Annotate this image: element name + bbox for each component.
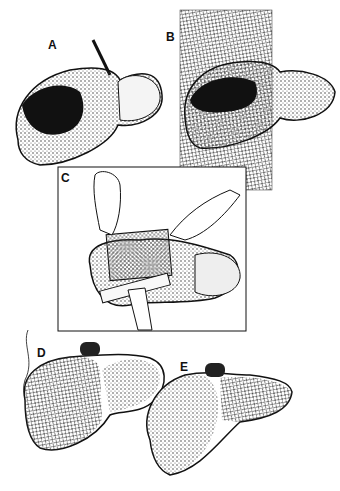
panel-c-label: C: [61, 171, 70, 185]
figure-canvas: [0, 0, 340, 491]
panel-d-label: D: [37, 346, 46, 360]
panel-b-label: B: [166, 30, 175, 44]
panel-e-label: E: [180, 360, 188, 374]
panel-b-liver-on-mesh: [180, 10, 335, 190]
panel-e-wrapped-liver: [147, 363, 292, 475]
panel-c-wrapping: [58, 167, 246, 331]
panel-a-liver: [16, 40, 162, 165]
panel-a-label: A: [48, 38, 57, 52]
